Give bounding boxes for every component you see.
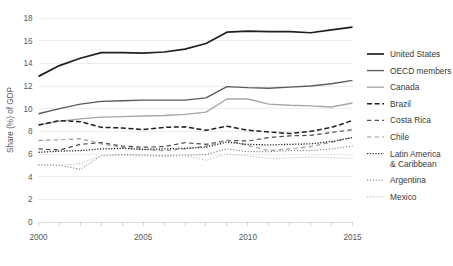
y-tick-label: 8 [28,127,33,136]
y-tick-label: 4 [28,173,33,182]
legend-label: Argentina [390,175,426,185]
y-tick-label: 10 [23,105,33,114]
y-axis-title: Share (%) of GDP [6,86,15,153]
legend-label-line2: & Caribbean [390,159,437,169]
y-tick-label: 14 [23,59,33,68]
legend-item[interactable]: OECD members [367,66,451,76]
legend: United StatesOECD membersCanadaBrazilCos… [367,49,451,202]
y-tick-label: 12 [23,82,33,91]
chart-canvas: 024681012141618 2000200520102015 Share (… [0,0,453,266]
x-tick-label: 2015 [343,233,362,242]
y-axis-title: Share (%) of GDP [6,86,15,153]
legend-label: Brazil [390,99,411,109]
legend-item[interactable]: Mexico [367,192,417,202]
legend-label: United States [390,49,440,59]
legend-label: Mexico [390,192,417,202]
legend-label: OECD members [390,66,451,76]
legend-item[interactable]: Costa Rica [367,115,431,125]
legend-item[interactable]: Brazil [367,99,411,109]
x-tick-label: 2000 [29,233,48,242]
legend-item[interactable]: United States [367,49,440,59]
y-tick-label: 18 [23,14,33,23]
x-tick-label: 2005 [134,233,153,242]
series-layer [39,27,353,169]
legend-item[interactable]: Argentina [367,175,426,185]
x-tick-label: 2010 [239,233,258,242]
y-tick-label: 6 [28,150,33,159]
line-chart: 024681012141618 2000200520102015 Share (… [0,0,453,266]
legend-item[interactable]: Chile [367,132,409,142]
series-line [39,146,353,169]
y-tick-label: 0 [28,218,33,227]
grid-layer [39,18,353,222]
y-tick-label: 16 [23,37,33,46]
y-tick-label: 2 [28,195,33,204]
legend-item[interactable]: Canada [367,82,420,92]
x-tick-labels: 2000200520102015 [29,233,362,242]
legend-label: Latin America [390,149,441,159]
series-line [39,154,353,165]
axis-layer [39,222,353,226]
y-tick-labels: 024681012141618 [23,14,33,227]
legend-label: Canada [390,82,420,92]
legend-label: Chile [390,132,409,142]
legend-label: Costa Rica [390,115,431,125]
legend-item[interactable]: Latin America& Caribbean [367,149,441,169]
series-line [39,27,353,76]
